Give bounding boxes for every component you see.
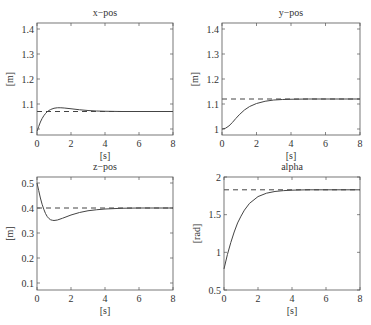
x-tick-label: 8 bbox=[171, 293, 176, 304]
subplot-alpha: alpha024680.511.52[s][rad] bbox=[191, 161, 363, 316]
response-curve bbox=[222, 99, 360, 129]
y-tick-label: 0.2 bbox=[22, 253, 35, 264]
x-tick-label: 4 bbox=[103, 293, 108, 304]
x-tick-label: 2 bbox=[69, 293, 74, 304]
x-tick-label: 6 bbox=[324, 293, 329, 304]
y-tick-label: 1.5 bbox=[209, 209, 222, 220]
chart-title: y−pos bbox=[279, 7, 304, 18]
x-tick-label: 8 bbox=[358, 138, 363, 149]
x-tick-label: 6 bbox=[137, 138, 142, 149]
y-axis-label: [m] bbox=[189, 72, 200, 86]
axes-frame bbox=[222, 23, 360, 135]
subplot-x-pos: x−pos0246811.11.21.31.4[s][m] bbox=[4, 7, 176, 161]
x-axis-label: [s] bbox=[100, 150, 111, 161]
y-tick-label: 1 bbox=[29, 124, 34, 135]
y-tick-label: 1.1 bbox=[207, 99, 220, 110]
response-curve bbox=[224, 190, 360, 269]
axes-frame bbox=[37, 23, 173, 135]
x-axis-label: [s] bbox=[287, 305, 298, 316]
y-tick-label: 1 bbox=[216, 247, 221, 258]
x-axis-label: [s] bbox=[100, 305, 111, 316]
y-tick-label: 0.3 bbox=[22, 228, 35, 239]
subplot-z-pos: z−pos024680.10.20.30.40.5[s][m] bbox=[4, 161, 176, 316]
subplot-y-pos: y−pos0246811.11.21.31.4[s][m] bbox=[189, 7, 363, 161]
x-tick-label: 0 bbox=[220, 138, 225, 149]
response-curve bbox=[37, 183, 173, 221]
y-axis-label: [rad] bbox=[191, 224, 202, 243]
figure-canvas: x−pos0246811.11.21.31.4[s][m] y−pos02468… bbox=[0, 0, 371, 325]
y-tick-label: 0.4 bbox=[22, 203, 35, 214]
y-axis-label: [m] bbox=[4, 226, 15, 240]
y-tick-label: 1.3 bbox=[22, 49, 35, 60]
x-tick-label: 4 bbox=[103, 138, 108, 149]
chart-title: x−pos bbox=[93, 7, 118, 18]
chart-title: alpha bbox=[281, 161, 303, 172]
y-tick-label: 0.1 bbox=[22, 278, 35, 289]
x-tick-label: 4 bbox=[290, 293, 295, 304]
y-tick-label: 0.5 bbox=[22, 178, 35, 189]
x-tick-label: 2 bbox=[69, 138, 74, 149]
x-tick-label: 2 bbox=[256, 293, 261, 304]
x-tick-label: 6 bbox=[137, 293, 142, 304]
y-tick-label: 1.2 bbox=[207, 74, 220, 85]
y-tick-label: 1.4 bbox=[22, 24, 35, 35]
y-tick-label: 0.5 bbox=[209, 285, 222, 296]
x-tick-label: 2 bbox=[254, 138, 259, 149]
x-tick-label: 4 bbox=[289, 138, 294, 149]
y-tick-label: 1.2 bbox=[22, 74, 35, 85]
x-tick-label: 8 bbox=[171, 138, 176, 149]
y-tick-label: 2 bbox=[216, 172, 221, 183]
y-tick-label: 1.4 bbox=[207, 24, 220, 35]
x-tick-label: 0 bbox=[35, 138, 40, 149]
y-tick-label: 1 bbox=[214, 124, 219, 135]
axes-frame bbox=[37, 177, 173, 290]
x-axis-label: [s] bbox=[286, 150, 297, 161]
x-tick-label: 8 bbox=[358, 293, 363, 304]
x-tick-label: 6 bbox=[323, 138, 328, 149]
axes-frame bbox=[224, 177, 360, 290]
y-tick-label: 1.1 bbox=[22, 99, 35, 110]
y-axis-label: [m] bbox=[4, 72, 15, 86]
y-tick-label: 1.3 bbox=[207, 49, 220, 60]
x-tick-label: 0 bbox=[222, 293, 227, 304]
chart-title: z−pos bbox=[93, 161, 117, 172]
x-tick-label: 0 bbox=[35, 293, 40, 304]
